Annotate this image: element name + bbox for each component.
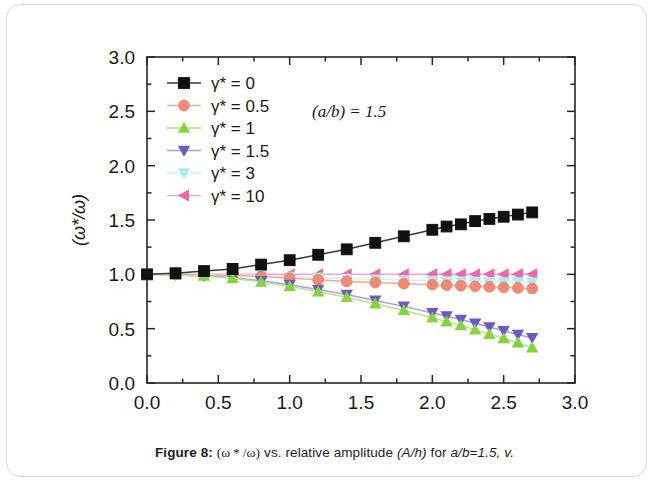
legend-item-3[interactable]: γ* = 3 — [167, 164, 255, 183]
x-tick-label: 2.5 — [490, 392, 516, 413]
data-point — [398, 278, 409, 289]
legend-marker — [179, 100, 190, 111]
legend-marker — [178, 190, 189, 202]
data-point — [370, 237, 381, 248]
y-tick-label: 2.0 — [109, 156, 135, 177]
x-tick-label: 1.0 — [276, 392, 302, 413]
data-point — [484, 281, 495, 292]
data-point — [527, 283, 538, 294]
x-tick-label: 0.5 — [205, 392, 231, 413]
chart-annotation: (a/b) = 1.5 — [312, 102, 386, 121]
data-point — [427, 224, 438, 235]
chart-legend: γ* = 0γ* = 0.5γ* = 1γ* = 1.5γ* = 3γ* = 1… — [167, 74, 269, 206]
legend-item-0-5[interactable]: γ* = 0.5 — [167, 97, 269, 116]
data-point — [256, 259, 267, 270]
y-tick-label: 2.5 — [109, 101, 135, 122]
chart-series-group — [141, 207, 539, 352]
data-point — [455, 280, 466, 291]
data-point — [455, 219, 466, 230]
data-point — [398, 231, 409, 242]
legend-label: γ* = 3 — [211, 164, 255, 183]
figure-caption-label: Figure 8: — [155, 445, 213, 460]
figure-caption-formula: (ω * /ω) — [217, 445, 260, 460]
data-point — [427, 279, 438, 290]
chart-plot-region: 0.00.51.01.52.02.53.0 0.00.51.01.52.02.5… — [7, 5, 655, 425]
legend-label: γ* = 0.5 — [211, 97, 269, 116]
figure-card: 0.00.51.01.52.02.53.0 0.00.51.01.52.02.5… — [6, 4, 647, 477]
data-point — [470, 281, 481, 292]
data-point — [284, 255, 295, 266]
annotation-label: (a/b) = 1.5 — [312, 102, 386, 121]
data-point — [441, 221, 452, 232]
legend-label: γ* = 1 — [211, 119, 255, 138]
y-tick-label: 1.5 — [109, 210, 135, 231]
figure-caption-param-2: a/b=1.5, v. — [450, 445, 514, 460]
x-tick-label: 3.0 — [562, 392, 588, 413]
data-point — [341, 244, 352, 255]
x-tick-label: 1.5 — [348, 392, 374, 413]
legend-label: γ* = 1.5 — [211, 142, 269, 161]
data-point — [441, 280, 452, 291]
y-tick-label: 0.0 — [109, 373, 135, 394]
figure-caption: Figure 8: (ω * /ω) vs. relative amplitud… — [7, 445, 655, 461]
y-axis-title: (ω*/ω) — [69, 194, 89, 246]
y-tick-label: 0.5 — [109, 319, 135, 340]
x-tick-label: 0.0 — [134, 392, 160, 413]
figure-caption-param-1: (A/h) — [397, 445, 427, 460]
data-point — [227, 264, 238, 275]
data-point — [370, 277, 381, 288]
data-point — [498, 282, 509, 293]
x-axis-tick-labels: 0.00.51.01.52.02.53.0 — [134, 392, 588, 413]
legend-item-1-5[interactable]: γ* = 1.5 — [167, 142, 269, 161]
legend-label: γ* = 10 — [211, 187, 264, 206]
legend-label: γ* = 0 — [211, 74, 255, 93]
data-point — [313, 274, 324, 285]
legend-item-10[interactable]: γ* = 10 — [167, 187, 264, 206]
data-point — [484, 214, 495, 225]
chart-svg: 0.00.51.01.52.02.53.0 0.00.51.01.52.02.5… — [7, 5, 655, 425]
data-point — [199, 266, 210, 277]
legend-item-1[interactable]: γ* = 1 — [167, 119, 255, 138]
figure-caption-text-2: for — [431, 445, 447, 460]
data-point — [341, 276, 352, 287]
data-point — [170, 268, 181, 279]
y-tick-label: 3.0 — [109, 47, 135, 68]
figure-caption-text-1: vs. relative amplitude — [264, 445, 393, 460]
data-point — [470, 216, 481, 227]
y-axis-tick-labels: 0.00.51.01.52.02.53.0 — [109, 47, 135, 394]
y-tick-label: 1.0 — [109, 264, 135, 285]
data-point — [142, 269, 153, 280]
data-point — [527, 207, 538, 218]
legend-item-0[interactable]: γ* = 0 — [167, 74, 255, 93]
x-tick-label: 2.0 — [419, 392, 445, 413]
data-point — [313, 249, 324, 260]
legend-marker — [179, 78, 190, 89]
data-point — [513, 283, 524, 294]
data-point — [513, 209, 524, 220]
series-0 — [142, 207, 538, 280]
data-point — [498, 211, 509, 222]
